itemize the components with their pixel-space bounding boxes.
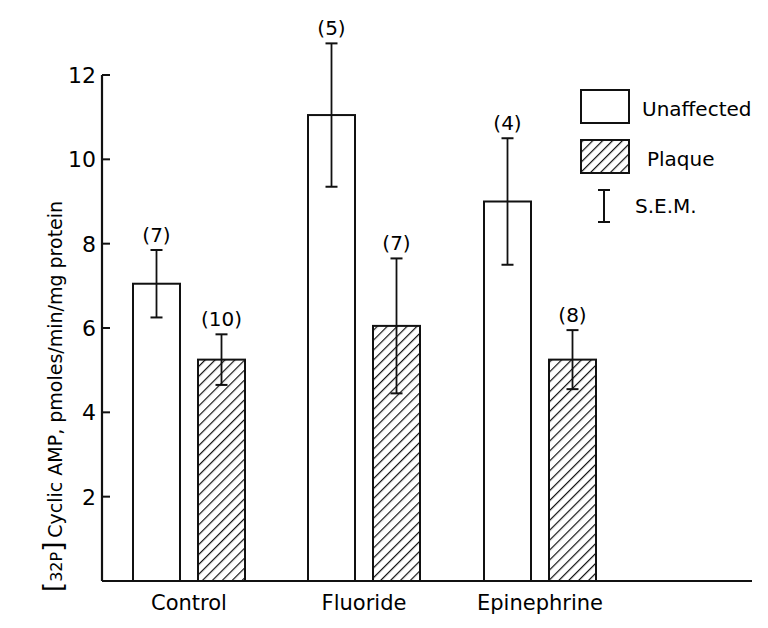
bar-group-control: (7)(10)Control	[133, 223, 245, 615]
bar-unaffected-control	[133, 284, 180, 581]
sample-size-label: (7)	[382, 231, 410, 255]
bar-plaque-control	[198, 360, 245, 581]
legend-swatch-hatched	[581, 140, 629, 173]
y-tick-label: 12	[68, 63, 96, 88]
legend-label: S.E.M.	[635, 194, 697, 218]
legend: UnaffectedPlaqueS.E.M.	[581, 90, 752, 222]
x-category-label: Control	[151, 591, 227, 615]
sample-size-label: (7)	[142, 223, 170, 247]
y-axis-label-bracket-open: [	[38, 582, 68, 592]
y-tick-label: 10	[68, 147, 96, 172]
sample-size-label: (4)	[493, 111, 521, 135]
y-axis-label: [32P]Cyclic AMP, pmoles/min/mg protein	[38, 201, 68, 592]
legend-item-plaque: Plaque	[581, 140, 715, 173]
legend-item-sem: S.E.M.	[598, 190, 697, 222]
legend-item-unaffected: Unaffected	[581, 90, 752, 123]
bar-group-epinephrine: (4)(8)Epinephrine	[477, 111, 603, 615]
svg-text:[32P]Cyclic AMP, pmoles/min/mg: [32P]Cyclic AMP, pmoles/min/mg protein	[38, 201, 68, 592]
sample-size-label: (5)	[317, 16, 345, 40]
y-tick-label: 8	[82, 232, 96, 257]
y-tick-label: 4	[82, 400, 96, 425]
y-axis-label-text: Cyclic AMP, pmoles/min/mg protein	[44, 201, 66, 538]
x-category-label: Fluoride	[322, 591, 407, 615]
x-category-label: Epinephrine	[477, 591, 603, 615]
legend-label: Plaque	[647, 147, 715, 171]
y-axis-label-bracket-close: ]	[38, 542, 68, 552]
bar-group-fluoride: (5)(7)Fluoride	[308, 16, 420, 615]
y-tick-label: 2	[82, 485, 96, 510]
sample-size-label: (8)	[558, 303, 586, 327]
y-tick-label: 6	[82, 316, 96, 341]
y-axis-label-isotope: 32P	[47, 551, 66, 581]
sample-size-label: (10)	[201, 307, 242, 331]
legend-swatch-open	[581, 90, 629, 123]
bar-plaque-epinephrine	[549, 360, 596, 581]
bar-chart: [32P]Cyclic AMP, pmoles/min/mg protein 2…	[0, 0, 768, 628]
legend-error-bar-icon	[598, 190, 610, 222]
bars: (7)(10)Control(5)(7)Fluoride(4)(8)Epinep…	[133, 16, 603, 615]
legend-label: Unaffected	[642, 97, 752, 121]
